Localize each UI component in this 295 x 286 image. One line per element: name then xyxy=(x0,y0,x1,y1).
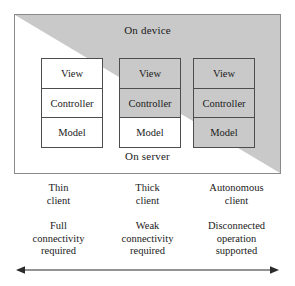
autonomous-client-stack: View Controller Model xyxy=(193,58,255,148)
stack-cell-view: View xyxy=(120,59,180,88)
connectivity-column-autonomous-client: Disconnected operation supported xyxy=(192,220,281,258)
caption-column-thick-client: Thick client xyxy=(103,182,192,207)
stack-cell-model: Model xyxy=(194,117,254,147)
caption-line: Thin xyxy=(14,182,103,195)
connectivity-spectrum-arrow xyxy=(14,262,281,278)
cell-label: View xyxy=(213,68,235,79)
on-device-label: On device xyxy=(15,24,280,36)
thick-client-stack: View Controller Model xyxy=(119,58,181,148)
caption-line: client xyxy=(14,195,103,208)
caption-line: connectivity xyxy=(103,233,192,246)
cell-label: Model xyxy=(58,127,85,138)
caption-column-autonomous-client: Autonomous client xyxy=(192,182,281,207)
caption-line: Weak xyxy=(103,220,192,233)
caption-line: Thick xyxy=(103,182,192,195)
stack-cell-controller: Controller xyxy=(120,88,180,118)
caption-line: supported xyxy=(192,245,281,258)
cell-label: Model xyxy=(136,127,163,138)
cell-label: View xyxy=(61,68,83,79)
caption-line: connectivity xyxy=(14,233,103,246)
caption-line: Autonomous xyxy=(192,182,281,195)
caption-line: Full xyxy=(14,220,103,233)
caption-line: required xyxy=(103,245,192,258)
cell-label: Model xyxy=(210,127,237,138)
connectivity-captions: Full connectivity required Weak connecti… xyxy=(14,220,281,258)
stack-cell-controller: Controller xyxy=(42,88,102,118)
thin-client-stack: View Controller Model xyxy=(41,58,103,148)
connectivity-column-thick-client: Weak connectivity required xyxy=(103,220,192,258)
caption-line: Disconnected xyxy=(192,220,281,233)
caption-line: client xyxy=(103,195,192,208)
stack-cell-view: View xyxy=(42,59,102,88)
cell-label: Controller xyxy=(202,98,245,109)
caption-line: client xyxy=(192,195,281,208)
cell-label: View xyxy=(139,68,161,79)
caption-line: operation xyxy=(192,233,281,246)
connectivity-column-thin-client: Full connectivity required xyxy=(14,220,103,258)
caption-column-thin-client: Thin client xyxy=(14,182,103,207)
stack-cell-view: View xyxy=(194,59,254,88)
stack-cell-model: Model xyxy=(42,117,102,147)
caption-line: required xyxy=(14,245,103,258)
cell-label: Controller xyxy=(128,98,171,109)
on-server-label: On server xyxy=(15,150,280,162)
stack-cell-model: Model xyxy=(120,117,180,147)
cell-label: Controller xyxy=(50,98,93,109)
stack-cell-controller: Controller xyxy=(194,88,254,118)
client-type-captions: Thin client Thick client Autonomous clie… xyxy=(14,182,281,207)
device-server-container: On device View Controller Model View Con… xyxy=(14,14,281,174)
client-architecture-diagram: On device View Controller Model View Con… xyxy=(0,0,295,286)
